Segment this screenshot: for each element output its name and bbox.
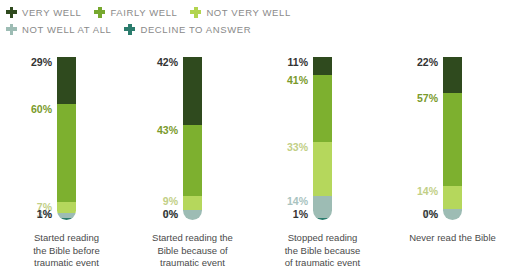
bar-segment[interactable]: [57, 202, 76, 213]
segment-value-label: 60%: [31, 104, 52, 115]
segment-value-label: 43%: [157, 125, 178, 136]
stacked-bar[interactable]: [57, 57, 76, 220]
plus-cross-icon: [190, 7, 201, 18]
bar-segment[interactable]: [313, 142, 332, 196]
segment-value-label: 14%: [417, 186, 438, 197]
chart-column: 29%60%7%3%1%Started reading the Bible be…: [3, 40, 130, 275]
bar-segment[interactable]: [57, 104, 76, 202]
legend-label: FAIRLY WELL: [110, 7, 177, 18]
segment-value-label: 33%: [287, 142, 308, 153]
segment-value-label: 14%: [287, 196, 308, 207]
segment-value-label: 0%: [163, 209, 178, 220]
bar-segment[interactable]: [183, 57, 202, 125]
stacked-bar[interactable]: [313, 57, 332, 220]
bar-segment[interactable]: [57, 57, 76, 104]
column-caption: Stopped reading the Bible because of tra…: [259, 232, 386, 270]
bar-value-labels: 42%43%9%6%0%: [129, 57, 183, 220]
bar-segment[interactable]: [313, 218, 332, 220]
segment-value-label: 1%: [37, 209, 52, 220]
legend: VERY WELLFAIRLY WELLNOT VERY WELLNOT WEL…: [6, 4, 502, 38]
segment-value-label: 9%: [163, 196, 178, 207]
bar-segment[interactable]: [183, 196, 202, 211]
plus-cross-icon: [94, 7, 105, 18]
bar-value-labels: 11%41%33%14%1%: [259, 57, 313, 220]
stacked-bar[interactable]: [183, 57, 202, 220]
bar-segment[interactable]: [313, 196, 332, 219]
stacked-bar[interactable]: [443, 57, 462, 220]
bar-segment[interactable]: [57, 218, 76, 220]
bar-segment[interactable]: [313, 75, 332, 142]
segment-value-label: 0%: [423, 209, 438, 220]
bar-segment[interactable]: [313, 57, 332, 75]
stacked-bar-chart: 29%60%7%3%1%Started reading the Bible be…: [0, 40, 508, 275]
legend-item-very-well[interactable]: VERY WELL: [6, 7, 81, 18]
bar-segment[interactable]: [183, 210, 202, 220]
legend-label: NOT VERY WELL: [206, 7, 290, 18]
legend-item-fairly-well[interactable]: FAIRLY WELL: [94, 7, 177, 18]
segment-value-label: 41%: [287, 75, 308, 86]
legend-label: VERY WELL: [22, 7, 81, 18]
chart-column: 42%43%9%6%0%Started reading the Bible be…: [129, 40, 256, 275]
segment-value-label: 42%: [157, 57, 178, 68]
segment-value-label: 29%: [31, 57, 52, 68]
plus-cross-icon: [6, 24, 17, 35]
bar-value-labels: 22%57%14%7%0%: [389, 57, 443, 220]
bar-segment[interactable]: [443, 209, 462, 220]
chart-column: 11%41%33%14%1%Stopped reading the Bible …: [259, 40, 386, 275]
segment-value-label: 22%: [417, 57, 438, 68]
segment-value-label: 11%: [288, 57, 308, 68]
bar-segment[interactable]: [183, 125, 202, 195]
bar-segment[interactable]: [443, 186, 462, 209]
column-caption: Started reading the Bible before traumat…: [3, 232, 130, 270]
segment-value-label: 57%: [417, 93, 438, 104]
segment-value-label: 1%: [293, 209, 308, 220]
bar-value-labels: 29%60%7%3%1%: [3, 57, 57, 220]
column-caption: Never read the Bible: [389, 232, 508, 245]
column-caption: Started reading the Bible because of tra…: [129, 232, 256, 270]
plus-cross-icon: [6, 7, 17, 18]
legend-item-decline-to-answer[interactable]: DECLINE TO ANSWER: [124, 24, 251, 35]
bar-segment[interactable]: [443, 93, 462, 186]
bar-segment[interactable]: [443, 57, 462, 93]
legend-row: NOT WELL AT ALLDECLINE TO ANSWER: [6, 21, 502, 37]
legend-item-not-very-well[interactable]: NOT VERY WELL: [190, 7, 290, 18]
chart-column: 22%57%14%7%0%Never read the Bible: [389, 40, 508, 275]
legend-label: NOT WELL AT ALL: [22, 24, 111, 35]
legend-item-not-well-at-all[interactable]: NOT WELL AT ALL: [6, 24, 111, 35]
legend-label: DECLINE TO ANSWER: [140, 24, 251, 35]
plus-cross-icon: [124, 24, 135, 35]
legend-row: VERY WELLFAIRLY WELLNOT VERY WELL: [6, 4, 502, 20]
